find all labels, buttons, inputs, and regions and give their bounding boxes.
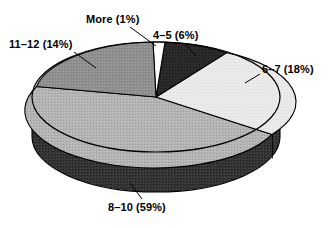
pie-label-8-10: 8–10 (59%) bbox=[108, 201, 166, 213]
pie-chart: More (1%) 4–5 (6%) 6–7 (18%) 11–12 (14%)… bbox=[0, 0, 336, 228]
pie-label-4-5: 4–5 (6%) bbox=[153, 29, 198, 41]
pie-label-more: More (1%) bbox=[86, 13, 139, 25]
pie-label-11-12: 11–12 (14%) bbox=[9, 38, 72, 50]
pie-label-6-7: 6–7 (18%) bbox=[262, 63, 314, 75]
